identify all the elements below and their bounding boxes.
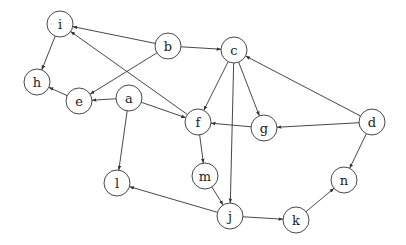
- edge-c-to-g: [239, 62, 260, 116]
- node-g[interactable]: g: [251, 115, 277, 141]
- edge-a-to-e: [92, 99, 116, 100]
- node-d[interactable]: d: [359, 109, 385, 135]
- edge-k-to-n: [306, 188, 334, 211]
- edge-f-to-m: [200, 135, 204, 163]
- edge-b-to-c: [181, 47, 221, 49]
- edge-c-to-f: [204, 62, 228, 111]
- edge-j-to-l: [129, 187, 217, 213]
- node-label: k: [292, 213, 300, 228]
- node-label: h: [33, 75, 42, 90]
- node-k[interactable]: k: [283, 207, 309, 233]
- graph-canvas: ibcheafgdlmnjk: [0, 0, 406, 245]
- node-label: m: [199, 169, 211, 184]
- edge-d-to-n: [350, 134, 367, 169]
- node-c[interactable]: c: [221, 37, 247, 63]
- node-label: b: [164, 39, 172, 54]
- edge-a-to-l: [119, 111, 127, 170]
- edge-j-to-k: [243, 217, 283, 219]
- edge-d-to-c: [246, 56, 361, 116]
- node-n[interactable]: n: [331, 167, 357, 193]
- edge-m-to-j: [212, 187, 223, 205]
- edge-d-to-g: [277, 123, 359, 128]
- edge-a-to-f: [141, 102, 185, 117]
- nodes-layer: ibcheafgdlmnjk: [24, 11, 385, 233]
- node-l[interactable]: l: [104, 170, 130, 196]
- node-label: e: [75, 94, 83, 109]
- node-f[interactable]: f: [185, 109, 211, 135]
- node-label: d: [368, 115, 376, 130]
- node-label: c: [230, 43, 237, 58]
- node-label: i: [58, 17, 62, 32]
- node-i[interactable]: i: [47, 11, 73, 37]
- edge-c-to-j: [230, 63, 233, 203]
- node-label: g: [260, 121, 268, 136]
- node-h[interactable]: h: [24, 69, 50, 95]
- edge-g-to-f: [211, 123, 251, 127]
- node-label: l: [115, 176, 119, 191]
- node-j[interactable]: j: [217, 203, 243, 229]
- node-e[interactable]: e: [66, 88, 92, 114]
- edge-b-to-i: [73, 27, 156, 44]
- edge-i-to-h: [42, 36, 55, 70]
- node-m[interactable]: m: [192, 163, 218, 189]
- directed-graph: ibcheafgdlmnjk: [0, 0, 406, 245]
- node-b[interactable]: b: [155, 33, 181, 59]
- edge-e-to-h: [49, 87, 67, 95]
- node-a[interactable]: a: [116, 85, 142, 111]
- node-label: a: [125, 91, 133, 106]
- node-label: n: [340, 173, 349, 188]
